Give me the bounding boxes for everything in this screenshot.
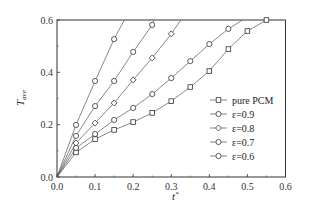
series--0-6 xyxy=(57,20,124,177)
circle-marker xyxy=(131,49,136,54)
circle-marker xyxy=(73,133,78,138)
y-axis-label: Tave xyxy=(14,90,28,106)
y-tick-label: 0.0 xyxy=(41,172,54,183)
legend-item: ε=0.6 xyxy=(210,151,254,162)
square-marker xyxy=(150,111,155,116)
circle-marker xyxy=(92,131,97,136)
square-marker xyxy=(207,69,212,74)
circle-marker xyxy=(112,78,117,83)
square-legend-icon xyxy=(216,98,221,103)
legend-label: pure PCM xyxy=(232,95,274,106)
x-tick-label: 0.2 xyxy=(127,181,140,192)
x-tick-label: 0.4 xyxy=(203,181,216,192)
legend: pure PCMε=0.9ε=0.8ε=0.7ε=0.6 xyxy=(210,95,274,162)
circle-marker xyxy=(150,91,155,96)
x-tick-label: 0.5 xyxy=(241,181,254,192)
circle-marker xyxy=(207,41,212,46)
circle-legend-icon xyxy=(216,153,221,158)
circle-legend-icon xyxy=(216,139,221,144)
series--0-7 xyxy=(57,20,155,177)
series-line xyxy=(57,20,154,177)
legend-item: ε=0.9 xyxy=(210,109,254,120)
legend-label: ε=0.9 xyxy=(232,109,254,120)
legend-item: pure PCM xyxy=(210,95,274,106)
square-marker xyxy=(245,29,250,34)
y-tick-label: 0.6 xyxy=(41,15,54,26)
series--0-9 xyxy=(57,20,243,177)
x-tick-label: 0.0 xyxy=(51,181,64,192)
circle-marker xyxy=(226,26,231,31)
line-chart: 0.00.10.20.30.40.50.60.00.20.40.6 pure P… xyxy=(0,0,309,215)
square-marker xyxy=(169,99,174,104)
square-marker xyxy=(226,47,231,52)
square-marker xyxy=(112,128,117,133)
legend-label: ε=0.7 xyxy=(232,137,254,148)
circle-legend-icon xyxy=(216,111,221,116)
legend-label: ε=0.6 xyxy=(232,151,254,162)
circle-marker xyxy=(169,75,174,80)
legend-label: ε=0.8 xyxy=(232,123,254,134)
diamond-marker xyxy=(168,31,174,37)
circle-marker xyxy=(150,22,155,27)
square-marker xyxy=(264,18,269,23)
diamond-legend-icon xyxy=(216,125,222,131)
x-tick-label: 0.6 xyxy=(279,181,292,192)
square-marker xyxy=(131,120,136,125)
x-tick-label: 0.1 xyxy=(89,181,102,192)
square-marker xyxy=(93,137,98,142)
circle-marker xyxy=(73,122,78,127)
circle-marker xyxy=(131,105,136,110)
x-axis-label: t* xyxy=(172,190,179,202)
circle-marker xyxy=(92,78,97,83)
circle-marker xyxy=(188,58,193,63)
legend-item: ε=0.8 xyxy=(210,123,254,134)
circle-marker xyxy=(112,117,117,122)
square-marker xyxy=(188,85,193,90)
legend-item: ε=0.7 xyxy=(210,137,254,148)
series-line xyxy=(57,20,243,177)
y-tick-label: 0.2 xyxy=(41,119,54,130)
y-tick-label: 0.4 xyxy=(41,67,54,78)
circle-marker xyxy=(112,37,117,42)
series-line xyxy=(57,20,124,177)
circle-marker xyxy=(92,103,97,108)
